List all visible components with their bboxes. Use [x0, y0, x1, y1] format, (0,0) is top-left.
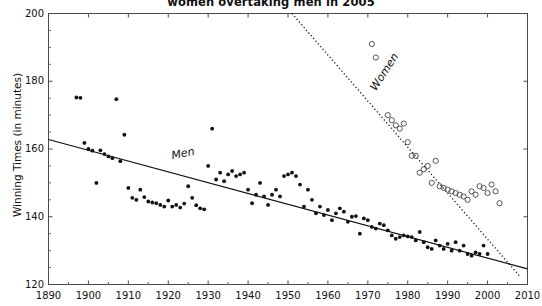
- data-point-men: [322, 213, 326, 217]
- data-point-men: [422, 240, 426, 244]
- data-point-women: [493, 189, 498, 194]
- data-point-women: [429, 180, 434, 185]
- data-point-men: [486, 252, 490, 256]
- data-point-men: [402, 233, 406, 237]
- data-point-men: [166, 199, 170, 203]
- data-point-men: [426, 245, 430, 249]
- data-point-men: [254, 193, 258, 197]
- data-point-men: [482, 244, 486, 248]
- data-point-men: [150, 201, 154, 205]
- trend-lines: [49, 14, 528, 277]
- data-point-men: [306, 188, 310, 192]
- data-point-men: [83, 141, 87, 145]
- data-point-men: [434, 239, 438, 243]
- data-point-men: [138, 188, 142, 192]
- data-point-men: [126, 186, 130, 190]
- data-point-men: [458, 249, 462, 253]
- data-point-men: [398, 235, 402, 239]
- plot-area: MenWomen: [0, 0, 542, 306]
- data-point-men: [370, 225, 374, 229]
- data-point-men: [354, 214, 358, 218]
- trendline-men: [49, 140, 528, 269]
- data-point-men: [374, 227, 378, 231]
- data-point-men: [102, 152, 106, 156]
- data-point-men: [454, 240, 458, 244]
- data-point-men: [158, 203, 162, 207]
- data-point-men: [390, 233, 394, 237]
- data-point-men: [170, 205, 174, 209]
- data-point-men: [198, 206, 202, 210]
- data-point-women: [373, 55, 378, 60]
- data-point-men: [134, 198, 138, 202]
- data-point-men: [246, 188, 250, 192]
- data-point-men: [290, 171, 294, 175]
- data-point-women: [425, 163, 430, 168]
- chart-container: women overtaking men in 2005 Winning Tim…: [0, 0, 542, 306]
- data-point-women: [433, 158, 438, 163]
- data-point-women: [389, 118, 394, 123]
- data-point-men: [466, 252, 470, 256]
- data-point-women: [485, 190, 490, 195]
- data-point-men: [110, 156, 114, 160]
- data-point-men: [358, 232, 362, 236]
- data-point-women: [405, 140, 410, 145]
- data-points: [75, 41, 503, 257]
- data-point-men: [438, 244, 442, 248]
- data-point-men: [282, 174, 286, 178]
- data-point-men: [87, 147, 91, 151]
- data-point-women: [473, 192, 478, 197]
- data-point-men: [346, 220, 350, 224]
- data-point-men: [318, 205, 322, 209]
- series-annotations: MenWomen: [170, 51, 401, 162]
- data-point-men: [222, 179, 226, 183]
- data-point-men: [394, 237, 398, 241]
- data-point-men: [262, 195, 266, 199]
- data-point-women: [369, 41, 374, 46]
- series-label-men: Men: [170, 145, 195, 162]
- data-point-men: [342, 210, 346, 214]
- data-point-men: [118, 159, 122, 163]
- data-point-men: [298, 183, 302, 187]
- data-point-men: [414, 239, 418, 243]
- data-point-men: [190, 196, 194, 200]
- data-point-men: [230, 169, 234, 173]
- data-point-men: [302, 205, 306, 209]
- data-point-men: [75, 96, 79, 100]
- data-point-men: [250, 201, 254, 205]
- data-point-men: [478, 252, 482, 256]
- data-point-men: [202, 207, 206, 211]
- data-point-men: [98, 148, 102, 152]
- data-point-women: [497, 201, 502, 206]
- data-point-men: [206, 164, 210, 168]
- data-point-men: [330, 218, 334, 222]
- data-point-men: [182, 202, 186, 206]
- data-point-men: [106, 155, 110, 159]
- data-point-women: [385, 113, 390, 118]
- data-point-men: [258, 181, 262, 185]
- data-point-men: [266, 203, 270, 207]
- data-point-men: [95, 181, 99, 185]
- data-point-men: [114, 97, 118, 101]
- data-point-men: [310, 198, 314, 202]
- data-point-men: [242, 171, 246, 175]
- data-point-women: [465, 197, 470, 202]
- data-point-men: [154, 201, 158, 205]
- data-point-men: [142, 195, 146, 199]
- data-point-men: [406, 234, 410, 238]
- data-point-men: [338, 206, 342, 210]
- data-point-men: [442, 247, 446, 251]
- data-point-men: [462, 244, 466, 248]
- data-point-women: [489, 182, 494, 187]
- trendline-women: [292, 14, 520, 277]
- data-point-men: [382, 223, 386, 227]
- data-point-men: [194, 203, 198, 207]
- data-point-men: [226, 173, 230, 177]
- data-point-men: [186, 184, 190, 188]
- data-point-men: [270, 193, 274, 197]
- data-point-men: [210, 127, 214, 131]
- data-point-men: [366, 218, 370, 222]
- data-point-men: [450, 249, 454, 253]
- data-point-men: [274, 188, 278, 192]
- data-point-men: [278, 195, 282, 199]
- data-point-men: [378, 222, 382, 226]
